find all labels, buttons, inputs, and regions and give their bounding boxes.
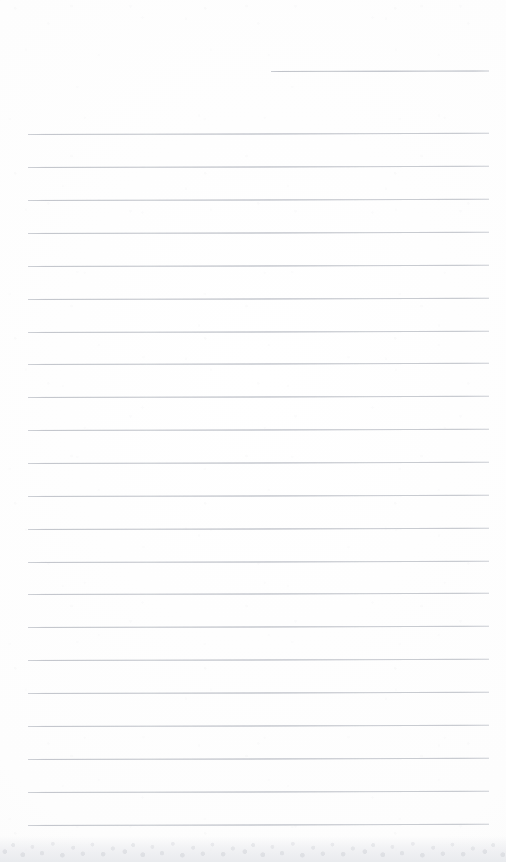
scanned-paper-page — [0, 0, 506, 862]
scan-bottom-edge-shadow — [0, 836, 506, 862]
paper-grain-texture — [0, 0, 506, 862]
